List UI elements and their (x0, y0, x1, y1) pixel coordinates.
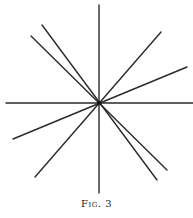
figure-caption: Fig. 3 (0, 198, 193, 209)
lines-group (6, 5, 193, 193)
center-point (97, 101, 101, 105)
pencil-of-lines-diagram (0, 0, 193, 218)
